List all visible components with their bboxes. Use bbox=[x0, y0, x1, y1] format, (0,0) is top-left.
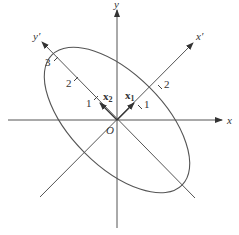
y-prime-tick-label-3: 3 bbox=[45, 56, 51, 68]
x-prime-label: x′ bbox=[195, 30, 204, 42]
x-prime-tick-label-1: 1 bbox=[144, 98, 150, 110]
x-prime-tick-1 bbox=[138, 105, 142, 109]
vector-x2 bbox=[100, 103, 117, 120]
x-prime-tick-2 bbox=[158, 85, 162, 89]
x-prime-tick-label-2: 2 bbox=[164, 78, 170, 90]
vector-x1 bbox=[117, 103, 134, 120]
x2-label: x2 bbox=[103, 90, 113, 104]
y-prime-label: y′ bbox=[32, 30, 41, 42]
x-axis-label: x bbox=[226, 114, 232, 126]
y-prime-tick-label-1: 1 bbox=[86, 97, 92, 109]
y-prime-tick-2 bbox=[74, 77, 78, 81]
y-axis-label: y bbox=[113, 0, 119, 10]
x1-label: x1 bbox=[125, 89, 135, 103]
ellipse-rotated-axes-diagram: x y x′ y′ O x1 x2 1 2 1 2 3 bbox=[0, 0, 239, 235]
y-prime-tick-label-2: 2 bbox=[66, 77, 72, 89]
origin-label: O bbox=[106, 124, 114, 136]
y-prime-tick-3 bbox=[54, 57, 58, 61]
